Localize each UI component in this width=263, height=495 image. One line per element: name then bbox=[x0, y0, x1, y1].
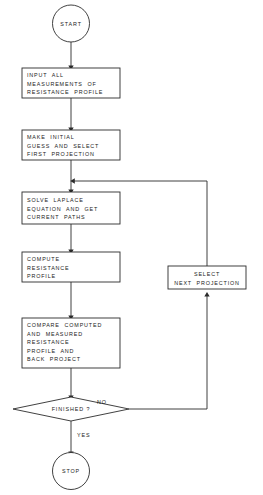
edge-label-no: NO bbox=[97, 399, 107, 405]
input-measurements-shape bbox=[22, 68, 120, 98]
flowchart-graphics bbox=[0, 0, 263, 495]
solve-laplace-shape bbox=[22, 192, 120, 224]
flowchart-canvas: START INPUT ALL MEASUREMENTS OF RESISTAN… bbox=[0, 0, 263, 495]
compute-resistance-shape bbox=[22, 252, 120, 282]
initial-guess-shape bbox=[22, 130, 120, 160]
finished-decision-label: FINISHED ? bbox=[41, 406, 101, 412]
stop-terminal-label: STOP bbox=[41, 468, 101, 474]
edge-label-yes: YES bbox=[77, 432, 90, 438]
select-next-projection-shape bbox=[168, 266, 246, 289]
start-terminal-label: START bbox=[41, 21, 101, 27]
compare-backproject-shape bbox=[22, 318, 120, 368]
